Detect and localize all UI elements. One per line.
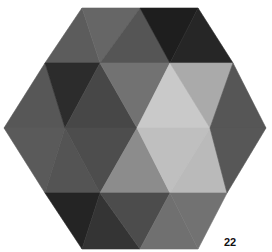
hexagon-figure — [0, 0, 272, 252]
page-number: 22 — [224, 236, 236, 248]
